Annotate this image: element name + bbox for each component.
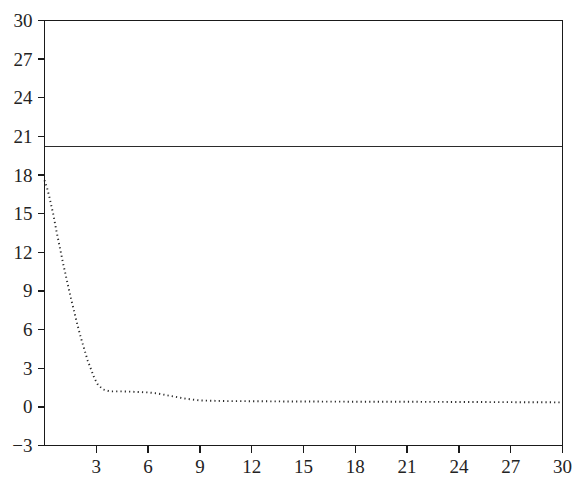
x-tick-label: 9 — [195, 456, 205, 477]
x-tick-label: 27 — [501, 456, 520, 477]
y-tick-label: 12 — [14, 242, 33, 263]
x-tick-label: 12 — [242, 456, 261, 477]
x-tick-label: 6 — [143, 456, 153, 477]
y-tick-label: 3 — [23, 358, 33, 379]
x-tick-label: 3 — [92, 456, 102, 477]
chart-container: −3036912151821242730 36912151821242730 — [0, 0, 587, 484]
x-tick-label: 21 — [398, 456, 417, 477]
y-tick-label: 24 — [14, 87, 34, 108]
y-tick-label: 18 — [14, 165, 33, 186]
y-tick-label: 9 — [23, 280, 33, 301]
x-tick-label: 30 — [553, 456, 572, 477]
y-tick-label: 15 — [14, 203, 33, 224]
chart-background — [0, 0, 587, 484]
y-tick-label: 21 — [14, 126, 33, 147]
x-tick-label: 24 — [449, 456, 469, 477]
y-tick-label: 6 — [23, 319, 33, 340]
line-chart: −3036912151821242730 36912151821242730 — [0, 0, 587, 484]
y-tick-label: 30 — [14, 10, 33, 31]
y-tick-label: 0 — [23, 396, 33, 417]
y-tick-label: −3 — [12, 435, 32, 456]
x-tick-label: 15 — [294, 456, 313, 477]
y-tick-label: 27 — [14, 49, 33, 70]
x-tick-label: 18 — [346, 456, 365, 477]
